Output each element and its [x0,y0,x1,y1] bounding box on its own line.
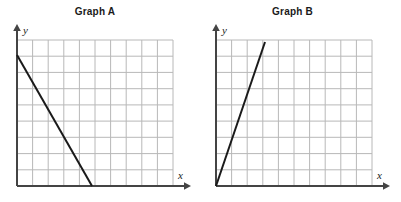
graph-b-x-axis-arrow [383,182,390,190]
graph-b-axes [216,31,383,186]
graph-a-axes [17,31,184,186]
graph-a-plot: x y [0,0,200,202]
graph-b-x-axis-label: x [376,169,382,181]
graph-b-plot: x y [200,0,401,202]
graph-a-x-axis-arrow [184,182,191,190]
graph-b-y-axis-arrow [212,24,220,31]
graph-b-grid-vertical [232,40,372,186]
graph-b-y-axis-label: y [221,24,227,36]
graph-a-y-axis-label: y [22,24,28,36]
graph-b-data-line [216,42,265,186]
graph-panel-b: Graph B [200,0,401,202]
graph-panel-a: Graph A [0,0,200,202]
graph-a-data-line [17,55,92,186]
graph-a-grid-vertical [33,40,173,186]
two-graph-figure: Graph A [0,0,401,202]
graph-a-x-axis-label: x [177,169,183,181]
graph-a-y-axis-arrow [13,24,21,31]
